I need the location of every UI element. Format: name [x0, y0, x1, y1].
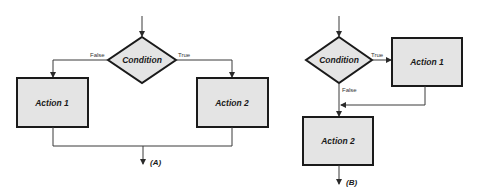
false-edge-label-b: False [342, 87, 357, 93]
false-edge-label-a: False [90, 52, 105, 58]
true-branch-line-a [176, 60, 232, 77]
condition-label-b: Condition [319, 55, 359, 65]
true-edge-label-b: True [371, 52, 384, 58]
false-branch-line-a [53, 60, 108, 77]
action-2-label-a: Action 2 [214, 98, 249, 108]
caption-b: (B) [346, 178, 357, 187]
action-1-label-a: Action 1 [34, 98, 69, 108]
merge-line-a [53, 127, 232, 146]
condition-label-a: Condition [122, 55, 162, 65]
caption-a: (A) [150, 158, 161, 167]
action-1-label-b: Action 1 [409, 57, 444, 67]
diagram-a: Condition False True Action 1 Action 2 (… [17, 16, 268, 167]
action-2-label-b: Action 2 [320, 136, 355, 146]
diagram-b: Condition True Action 1 False Action 2 (… [303, 16, 462, 187]
true-edge-label-a: True [178, 52, 191, 58]
flowchart-canvas: Condition False True Action 1 Action 2 (… [0, 0, 480, 190]
